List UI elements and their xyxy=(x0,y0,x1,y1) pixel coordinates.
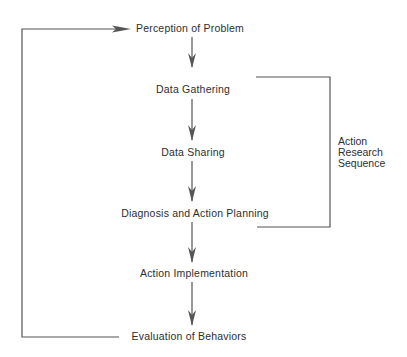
feedback-loop-arrow xyxy=(22,26,131,338)
action-research-bracket xyxy=(256,77,330,227)
down-arrow-5 xyxy=(188,282,196,326)
bracket-label-line-3: Sequence xyxy=(338,158,385,169)
node-perception-of-problem: Perception of Problem xyxy=(136,22,244,34)
node-data-sharing: Data Sharing xyxy=(161,146,225,158)
bracket-label-action-research-sequence: Action Research Sequence xyxy=(338,136,385,169)
flow-diagram-lines xyxy=(0,0,407,357)
node-evaluation-of-behaviors: Evaluation of Behaviors xyxy=(132,330,247,342)
down-arrow-3 xyxy=(188,161,196,202)
node-action-implementation: Action Implementation xyxy=(140,267,248,279)
down-arrow-2 xyxy=(188,99,196,141)
down-arrow-4 xyxy=(188,222,196,263)
node-data-gathering: Data Gathering xyxy=(156,83,230,95)
node-diagnosis-and-action-planning: Diagnosis and Action Planning xyxy=(121,207,269,219)
down-arrow-1 xyxy=(188,37,196,68)
